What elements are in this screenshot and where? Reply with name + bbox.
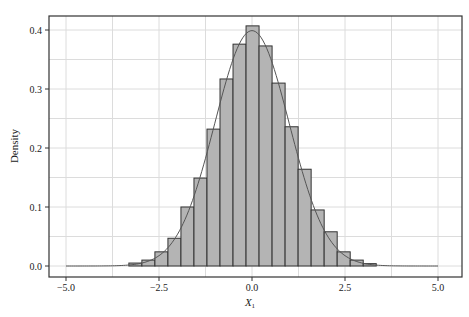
histogram-bar bbox=[168, 238, 181, 266]
histogram-bar bbox=[311, 210, 324, 266]
histogram-bar bbox=[246, 26, 259, 266]
histogram-bar bbox=[272, 83, 285, 266]
histogram-bars bbox=[129, 26, 376, 266]
x-tick-label: 5.0 bbox=[432, 282, 445, 293]
x-tick-label: 2.5 bbox=[339, 282, 352, 293]
y-axis-ticks: 0.00.10.20.30.4 bbox=[30, 25, 50, 272]
histogram-bar bbox=[207, 129, 220, 266]
x-tick-label: −2.5 bbox=[150, 282, 168, 293]
y-tick-label: 0.4 bbox=[30, 25, 43, 36]
x-tick-label: −5.0 bbox=[57, 282, 75, 293]
histogram-bar bbox=[259, 46, 272, 266]
histogram-bar bbox=[324, 232, 337, 266]
histogram-bar bbox=[181, 207, 194, 266]
x-axis-ticks: −5.0−2.50.02.55.0 bbox=[57, 277, 444, 293]
histogram-bar bbox=[285, 127, 298, 266]
x-tick-label: 0.0 bbox=[246, 282, 259, 293]
histogram-bar bbox=[337, 252, 350, 266]
y-tick-label: 0.0 bbox=[30, 261, 43, 272]
y-axis-title: Density bbox=[8, 128, 20, 163]
histogram-bar bbox=[233, 44, 246, 266]
y-tick-label: 0.3 bbox=[30, 84, 43, 95]
histogram-bar bbox=[220, 79, 233, 266]
x-axis-title: X1 bbox=[244, 296, 256, 310]
y-tick-label: 0.1 bbox=[30, 202, 43, 213]
histogram-chart: 0.00.10.20.30.4 −5.0−2.50.02.55.0 Densit… bbox=[0, 0, 469, 317]
histogram-bar bbox=[298, 169, 311, 266]
y-tick-label: 0.2 bbox=[30, 143, 43, 154]
